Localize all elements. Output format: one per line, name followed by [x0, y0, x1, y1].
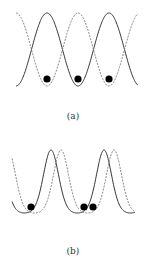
panel-b-particle — [27, 203, 34, 210]
panel-b-particle — [80, 203, 87, 210]
panel-a-particle — [43, 75, 50, 82]
figure-canvas — [0, 0, 146, 267]
panel-a-particle — [105, 75, 112, 82]
panel-a-particle — [74, 75, 81, 82]
panel-a-label: (a) — [0, 111, 146, 121]
panel-b-particles — [27, 203, 96, 210]
panel-a-solid-curve — [16, 13, 138, 86]
panel-b — [12, 150, 135, 213]
panel-a-particles — [43, 75, 112, 82]
panel-b-particle — [89, 203, 96, 210]
panel-a-dashed-curve — [16, 13, 138, 86]
panel-b-label: (b) — [0, 246, 146, 256]
panel-a — [16, 13, 138, 86]
